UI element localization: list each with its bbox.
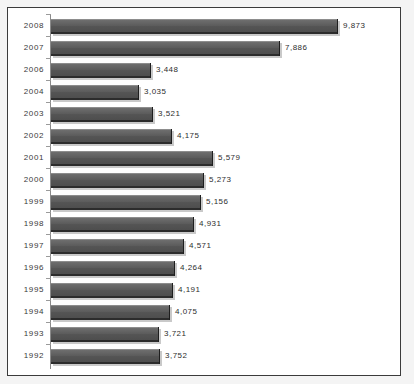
bar-track — [51, 107, 153, 123]
category-label: 1999 — [8, 196, 44, 208]
category-label: 1997 — [8, 240, 44, 252]
bar[interactable] — [51, 195, 201, 210]
bar[interactable] — [51, 327, 159, 342]
bar-track — [51, 239, 184, 255]
bar[interactable] — [51, 151, 213, 166]
bar-track — [51, 173, 204, 189]
bar-track — [51, 349, 160, 365]
bar[interactable] — [51, 283, 173, 298]
bar-row[interactable]: 19923,752 — [8, 346, 400, 368]
bar-track — [51, 41, 280, 57]
bar-track — [51, 261, 175, 277]
bar-track — [51, 151, 213, 167]
bar-row[interactable]: 20005,273 — [8, 170, 400, 192]
bar-value-label: 4,571 — [189, 240, 212, 252]
bar-row[interactable]: 20077,886 — [8, 38, 400, 60]
bar[interactable] — [51, 261, 175, 276]
bar-row[interactable]: 20043,035 — [8, 82, 400, 104]
bar-track — [51, 195, 201, 211]
chart-panel: 20089,87320077,88620063,44820043,0352003… — [7, 7, 401, 376]
bar-value-label: 4,264 — [180, 262, 203, 274]
bar-track — [51, 217, 194, 233]
bar[interactable] — [51, 349, 160, 364]
bar[interactable] — [51, 173, 204, 188]
page-background: 20089,87320077,88620063,44820043,0352003… — [0, 0, 414, 384]
bar-value-label: 4,191 — [178, 284, 201, 296]
category-label: 1996 — [8, 262, 44, 274]
category-label: 1995 — [8, 284, 44, 296]
bar-value-label: 4,175 — [177, 130, 200, 142]
bar-row[interactable]: 20089,873 — [8, 16, 400, 38]
bar-value-label: 3,521 — [158, 108, 181, 120]
bar-row[interactable]: 20063,448 — [8, 60, 400, 82]
plot-area: 20089,87320077,88620063,44820043,0352003… — [8, 8, 400, 375]
bar-value-label: 3,752 — [165, 350, 188, 362]
bar[interactable] — [51, 305, 170, 320]
bar-row[interactable]: 19933,721 — [8, 324, 400, 346]
bar-value-label: 5,156 — [206, 196, 229, 208]
bar-value-label: 9,873 — [343, 20, 366, 32]
bar[interactable] — [51, 41, 280, 56]
bar-value-label: 4,931 — [199, 218, 222, 230]
category-label: 2007 — [8, 42, 44, 54]
bar-track — [51, 129, 172, 145]
category-label: 2002 — [8, 130, 44, 142]
bar-value-label: 5,273 — [209, 174, 232, 186]
bar[interactable] — [51, 19, 338, 34]
category-label: 2008 — [8, 20, 44, 32]
category-label: 2006 — [8, 64, 44, 76]
bar-value-label: 5,579 — [218, 152, 241, 164]
bar-row[interactable]: 20033,521 — [8, 104, 400, 126]
bar-row[interactable]: 19995,156 — [8, 192, 400, 214]
category-label: 2000 — [8, 174, 44, 186]
category-label: 2001 — [8, 152, 44, 164]
bar[interactable] — [51, 85, 139, 100]
bar-row[interactable]: 19974,571 — [8, 236, 400, 258]
bar-track — [51, 327, 159, 343]
bar-row[interactable]: 20015,579 — [8, 148, 400, 170]
category-label: 2003 — [8, 108, 44, 120]
bar-value-label: 3,448 — [156, 64, 179, 76]
bar-value-label: 4,075 — [175, 306, 198, 318]
bar-value-label: 3,035 — [144, 86, 167, 98]
category-label: 1992 — [8, 350, 44, 362]
bar[interactable] — [51, 129, 172, 144]
bar-row[interactable]: 19944,075 — [8, 302, 400, 324]
category-label: 1994 — [8, 306, 44, 318]
bar-track — [51, 305, 170, 321]
bar-track — [51, 63, 151, 79]
bar[interactable] — [51, 217, 194, 232]
bar-value-label: 3,721 — [164, 328, 187, 340]
bar-row[interactable]: 19984,931 — [8, 214, 400, 236]
bar-row[interactable]: 19964,264 — [8, 258, 400, 280]
bar-track — [51, 283, 173, 299]
category-label: 1998 — [8, 218, 44, 230]
bar-value-label: 7,886 — [285, 42, 308, 54]
axis-tick — [46, 14, 51, 15]
bar[interactable] — [51, 63, 151, 78]
bar[interactable] — [51, 107, 153, 122]
bar[interactable] — [51, 239, 184, 254]
bar-track — [51, 19, 338, 35]
category-label: 2004 — [8, 86, 44, 98]
bar-row[interactable]: 20024,175 — [8, 126, 400, 148]
bar-row[interactable]: 19954,191 — [8, 280, 400, 302]
category-label: 1993 — [8, 328, 44, 340]
bar-track — [51, 85, 139, 101]
